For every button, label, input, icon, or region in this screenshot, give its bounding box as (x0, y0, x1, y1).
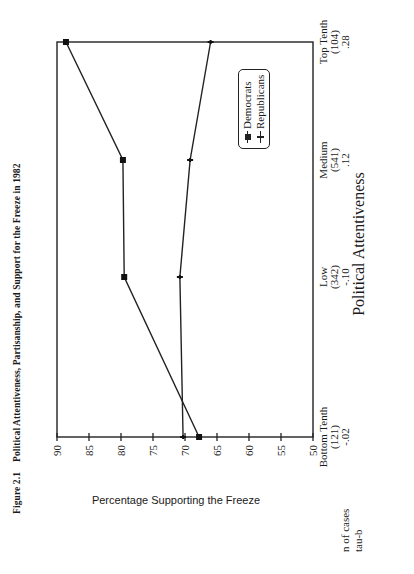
legend-item-republicans: Republicans (254, 75, 267, 143)
y-tick-label: 80 (115, 445, 127, 457)
legend-label: Democrats (241, 81, 254, 129)
x-axis-label: Political Attentiveness (350, 172, 368, 316)
democrats-square-marker-icon (121, 274, 127, 280)
democrats-square-marker-icon (196, 434, 202, 440)
y-tick-label: 55 (275, 445, 287, 457)
category-top-tenth: Top Tenth (104) .28 (318, 20, 351, 64)
y-tick-label: 65 (211, 445, 223, 457)
legend-label: Republicans (254, 75, 267, 129)
y-tick-label: 90 (51, 445, 63, 457)
y-axis-label: Percentage Supporting the Freeze (92, 494, 260, 506)
y-tick-label: 75 (147, 445, 159, 457)
y-tick-label: 60 (243, 445, 255, 457)
square-marker-icon (243, 131, 253, 143)
category-medium: Medium (541) .12 (318, 141, 351, 178)
category-bottom-tenth: Bottom Tenth (121) -.02 (318, 407, 351, 467)
cross-marker-icon (256, 131, 266, 143)
y-tick-label: 70 (179, 445, 191, 457)
legend-item-democrats: Democrats (241, 75, 254, 143)
category-low: Low (342) -.10 (318, 265, 351, 289)
category-tau: .28 (340, 20, 351, 64)
democrats-square-marker-icon (63, 39, 69, 45)
row-label-tau: tau-b (353, 529, 364, 552)
series-line-republicans (180, 42, 211, 437)
plot-frame (57, 42, 313, 437)
category-tau: -.02 (340, 407, 351, 467)
rotated-figure-page: Figure 2.1Political Attentiveness, Parti… (0, 0, 414, 574)
legend: Democrats Republicans (238, 69, 270, 149)
y-tick-label: 85 (83, 445, 95, 457)
series-line-democrats (66, 42, 199, 437)
row-label-n: n of cases (340, 509, 351, 552)
democrats-square-marker-icon (120, 157, 126, 163)
